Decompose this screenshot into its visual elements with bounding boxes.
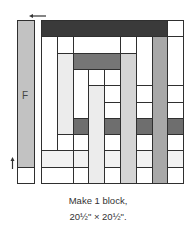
block-piece (57, 36, 74, 54)
block-piece (73, 36, 121, 54)
block-piece (136, 36, 153, 86)
block-piece (167, 85, 184, 103)
block-piece (152, 36, 168, 184)
block-piece (136, 118, 153, 135)
block-piece (136, 85, 153, 103)
block-piece (167, 118, 184, 135)
block-piece (167, 134, 184, 151)
block-piece (73, 167, 89, 184)
block-piece (104, 167, 121, 184)
quilt-block (41, 20, 184, 184)
block-piece (136, 102, 153, 119)
block-piece (136, 167, 153, 184)
block-piece (88, 85, 105, 184)
strip-f-end-square (17, 167, 35, 184)
block-piece (167, 167, 184, 184)
block-piece (73, 134, 89, 151)
block-piece (104, 150, 121, 168)
block-piece (57, 53, 74, 135)
block-piece (73, 69, 89, 119)
block-piece (104, 118, 121, 135)
block-piece (167, 20, 184, 37)
block-piece (41, 36, 58, 151)
block-piece (104, 69, 121, 86)
block-piece (41, 150, 74, 168)
block-piece (167, 150, 184, 168)
block-piece (41, 20, 168, 37)
block-piece (41, 167, 74, 184)
strip-f: F (17, 20, 35, 184)
arrow-up-icon (10, 157, 15, 169)
block-piece (73, 150, 89, 168)
block-piece (57, 134, 74, 151)
block-piece (167, 36, 184, 86)
block-piece (88, 69, 105, 86)
block-piece (104, 85, 121, 103)
block-piece (120, 53, 137, 184)
block-piece (136, 150, 153, 168)
caption-line-1: Make 1 block, (0, 193, 191, 209)
block-piece (167, 102, 184, 119)
block-piece (73, 118, 89, 135)
caption-line-2: 20½" × 20½". (0, 209, 191, 225)
strip-f-label: F (22, 90, 28, 101)
block-piece (73, 53, 121, 70)
block-piece (104, 134, 121, 151)
arrow-left-icon (29, 13, 47, 19)
block-piece (136, 134, 153, 151)
block-piece (104, 102, 121, 119)
block-piece (120, 36, 137, 54)
